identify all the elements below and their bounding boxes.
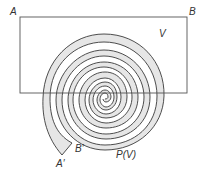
label-b: B <box>189 6 196 17</box>
label-pv: P(V) <box>116 149 136 160</box>
label-a: A <box>9 6 17 17</box>
label-v: V <box>159 28 167 39</box>
label-b-prime: B′ <box>75 143 85 154</box>
label-a-prime: A′ <box>55 158 66 169</box>
spiral-diagram: A B V A′ B′ P(V) <box>0 0 205 170</box>
